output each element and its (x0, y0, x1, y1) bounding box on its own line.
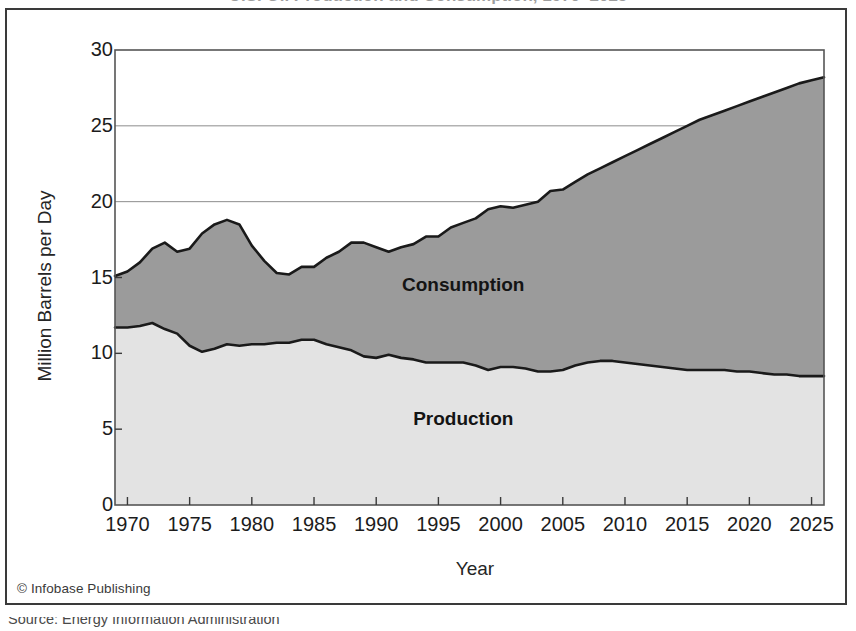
chart-title: U.S. Oil Production and Consumption, 197… (0, 0, 856, 6)
series-label-consumption: Consumption (402, 274, 524, 295)
figure-frame: Million Barrels per Day Year 05101520253… (5, 8, 847, 605)
chart-title-strip: U.S. Oil Production and Consumption, 197… (0, 0, 856, 8)
source-strip: Source: Energy Information Administratio… (0, 617, 856, 631)
area-chart-plot: ConsumptionProduction (7, 10, 849, 607)
source-note: Source: Energy Information Administratio… (8, 617, 280, 627)
publisher-credit: © Infobase Publishing (17, 581, 151, 596)
series-label-production: Production (413, 408, 513, 429)
